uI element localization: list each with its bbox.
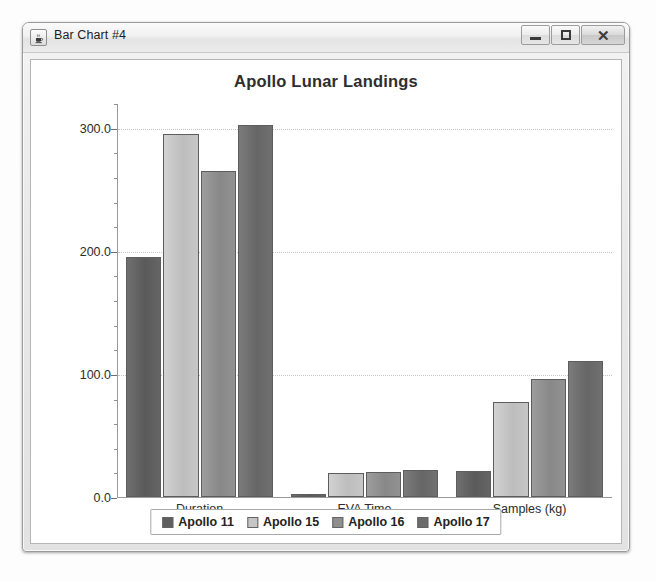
minimize-icon: [530, 37, 541, 40]
legend-swatch: [247, 517, 258, 528]
window-titlebar[interactable]: Bar Chart #4 ✕: [23, 23, 629, 53]
bar-apollo-16-samples-kg[interactable]: [531, 379, 566, 497]
bar-apollo-11-samples-kg[interactable]: [456, 471, 491, 497]
bar-apollo-16-duration[interactable]: [201, 171, 236, 497]
y-axis-labels: 0.0100.0200.0300.0: [49, 104, 111, 498]
bar-apollo-17-samples-kg[interactable]: [568, 361, 603, 497]
chart-panel[interactable]: Apollo Lunar Landings 0.0100.0200.0300.0…: [30, 59, 622, 544]
legend-label: Apollo 11: [178, 515, 234, 529]
legend-swatch: [417, 517, 428, 528]
bar-apollo-17-eva-time[interactable]: [403, 470, 438, 497]
bar-apollo-11-duration[interactable]: [126, 257, 161, 497]
bar-apollo-16-eva-time[interactable]: [366, 472, 401, 497]
bar-apollo-17-duration[interactable]: [238, 125, 273, 497]
maximize-button[interactable]: [551, 25, 580, 45]
legend-label: Apollo 16: [348, 515, 404, 529]
chart-legend: Apollo 11Apollo 15Apollo 16Apollo 17: [150, 509, 501, 535]
bar-apollo-15-eva-time[interactable]: [328, 473, 363, 497]
bar-apollo-11-eva-time[interactable]: [291, 494, 326, 497]
chart-title: Apollo Lunar Landings: [31, 72, 621, 91]
close-button[interactable]: ✕: [581, 25, 625, 45]
y-axis-tick-label: 300.0: [80, 122, 111, 136]
window-title: Bar Chart #4: [54, 28, 126, 42]
legend-item-apollo-15[interactable]: Apollo 15: [247, 515, 319, 529]
legend-item-apollo-11[interactable]: Apollo 11: [162, 515, 234, 529]
legend-item-apollo-17[interactable]: Apollo 17: [417, 515, 489, 529]
x-axis-category-label: Samples (kg): [493, 502, 567, 516]
legend-swatch: [332, 517, 343, 528]
plot-area: [117, 104, 612, 498]
legend-swatch: [162, 517, 173, 528]
java-cup-icon: [30, 29, 47, 46]
bar-series-container: [118, 104, 612, 497]
legend-label: Apollo 15: [263, 515, 319, 529]
legend-item-apollo-16[interactable]: Apollo 16: [332, 515, 404, 529]
screenshot-root: Bar Chart #4 ✕ Apollo Lunar Landings 0.0…: [0, 0, 656, 581]
close-icon: ✕: [597, 28, 610, 43]
maximize-icon: [561, 30, 571, 40]
bar-chart: Apollo Lunar Landings 0.0100.0200.0300.0…: [31, 60, 621, 543]
bar-apollo-15-samples-kg[interactable]: [493, 402, 528, 497]
legend-label: Apollo 17: [433, 515, 489, 529]
bar-apollo-15-duration[interactable]: [163, 134, 198, 497]
y-axis-tick-label: 200.0: [80, 245, 111, 259]
y-axis-tick-label: 100.0: [80, 368, 111, 382]
application-window: Bar Chart #4 ✕ Apollo Lunar Landings 0.0…: [22, 22, 630, 552]
y-axis-major-tick: [111, 498, 117, 499]
y-axis-tick-label: 0.0: [94, 491, 111, 505]
minimize-button[interactable]: [521, 25, 550, 45]
